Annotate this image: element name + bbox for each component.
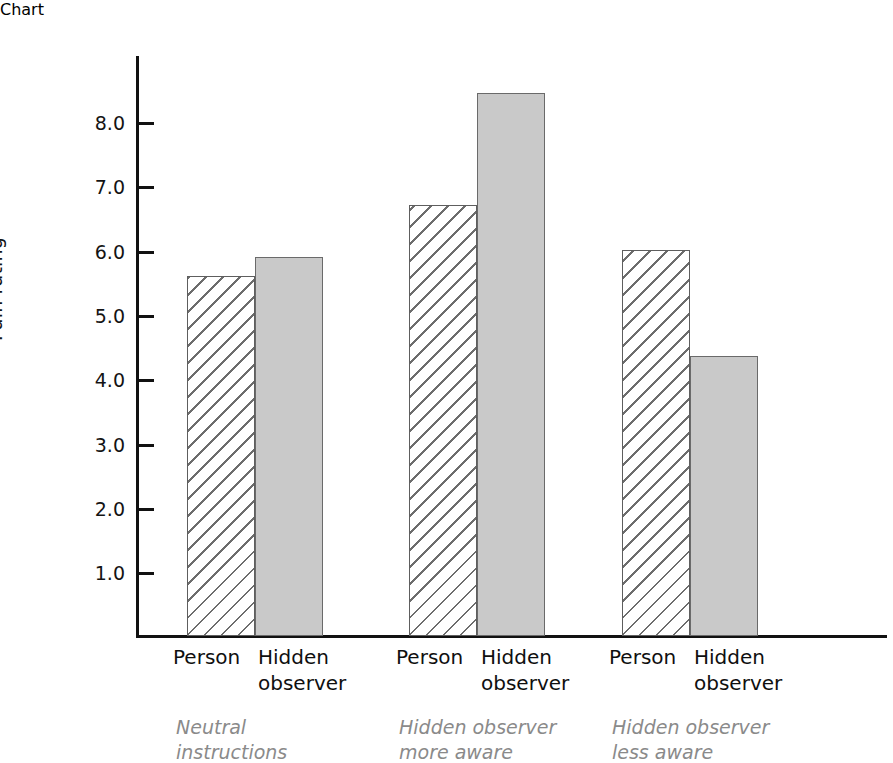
bar-label-more-aware-hidden-observer: Hidden observer <box>481 645 569 696</box>
bar-neutral-person[interactable] <box>187 276 255 636</box>
bar-label-less-aware-person: Person <box>609 645 676 671</box>
bar-more-aware-hidden-observer[interactable] <box>477 93 545 636</box>
bar-neutral-hidden-observer[interactable] <box>255 257 323 636</box>
bar-chart-figure: Pain rating 8.0 7.0 6.0 5.0 4.0 3.0 2.0 … <box>0 19 893 763</box>
group-caption-less-aware: Hidden observer less aware <box>612 715 769 763</box>
bar-less-aware-person[interactable] <box>622 250 690 636</box>
bar-label-more-aware-person: Person <box>396 645 463 671</box>
bar-label-neutral-hidden-observer: Hidden observer <box>258 645 346 696</box>
bar-label-neutral-person: Person <box>173 645 240 671</box>
group-caption-neutral-instructions: Neutral instructions <box>176 715 287 763</box>
bar-more-aware-person[interactable] <box>409 205 477 636</box>
bar-less-aware-hidden-observer[interactable] <box>690 356 758 636</box>
bar-label-less-aware-hidden-observer: Hidden observer <box>694 645 782 696</box>
group-caption-more-aware: Hidden observer more aware <box>399 715 556 763</box>
